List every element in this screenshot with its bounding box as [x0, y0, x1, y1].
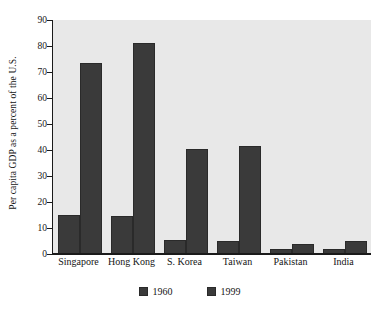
y-axis-tick-label: 40 — [38, 145, 48, 155]
bar-chart-figure: Per capita GDP as a percent of the U.S. … — [0, 0, 379, 309]
bar-group — [318, 20, 371, 254]
x-axis-tick-labels: SingaporeHong KongS. KoreaTaiwanPakistan… — [52, 256, 370, 274]
bar-1960 — [58, 215, 80, 254]
bar-group — [212, 20, 265, 254]
legend-swatch-icon — [207, 287, 216, 296]
y-axis-tick-label: 60 — [38, 93, 48, 103]
y-axis-tick-label: 20 — [38, 197, 48, 207]
bar-1960 — [164, 240, 186, 254]
bar-1999 — [239, 146, 261, 254]
bar-group — [53, 20, 106, 254]
bar-1999 — [133, 43, 155, 254]
x-axis-tick-label: S. Korea — [167, 256, 202, 267]
legend-entry: 1999 — [207, 286, 241, 297]
bar-group — [106, 20, 159, 254]
x-axis-tick-label: Taiwan — [223, 256, 252, 267]
legend-label: 1999 — [221, 286, 241, 297]
x-axis-tick-label: India — [333, 256, 354, 267]
y-axis-tick-label: 10 — [38, 223, 48, 233]
plot-area — [52, 20, 371, 254]
chart-legend: 19601999 — [0, 282, 379, 300]
y-axis-tick-label: 90 — [38, 15, 48, 25]
x-axis-tick-label: Singapore — [58, 256, 99, 267]
bar-group — [265, 20, 318, 254]
legend-label: 1960 — [153, 286, 173, 297]
y-axis-title: Per capita GDP as a percent of the U.S. — [0, 0, 26, 265]
legend-swatch-icon — [139, 287, 148, 296]
bar-group — [159, 20, 212, 254]
legend-entry: 1960 — [139, 286, 173, 297]
x-axis-line — [52, 253, 371, 255]
x-axis-tick-label: Pakistan — [274, 256, 308, 267]
y-axis-title-text: Per capita GDP as a percent of the U.S. — [8, 56, 18, 209]
y-axis-tick-label: 80 — [38, 41, 48, 51]
y-axis-tick-label: 50 — [38, 119, 48, 129]
bar-1999 — [80, 63, 102, 254]
bar-1960 — [111, 216, 133, 254]
y-axis-tick-label: 70 — [38, 67, 48, 77]
x-axis-tick-label: Hong Kong — [108, 256, 155, 267]
y-axis-tick-label: 30 — [38, 171, 48, 181]
bar-1999 — [186, 149, 208, 254]
